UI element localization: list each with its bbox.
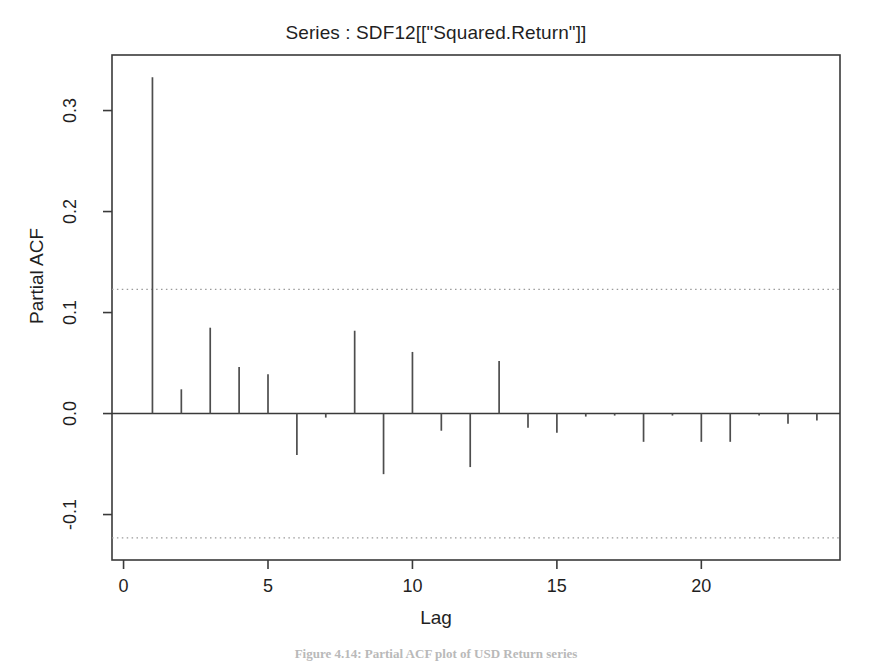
x-tick-label: 15	[527, 576, 587, 597]
y-tick-label: 0.1	[60, 290, 81, 334]
plot-frame	[112, 55, 840, 560]
y-tick-label: 0.3	[60, 88, 81, 132]
x-tick-label: 20	[671, 576, 731, 597]
x-tick-label: 10	[382, 576, 442, 597]
pacf-chart-figure: Series : SDF12[["Squared.Return"]] Parti…	[0, 0, 872, 661]
y-tick-label: 0.0	[60, 391, 81, 435]
plot-area	[0, 0, 872, 661]
y-tick-label: 0.2	[60, 189, 81, 233]
y-tick-label: -0.1	[60, 492, 81, 536]
x-tick-label: 0	[94, 576, 154, 597]
figure-caption: Figure 4.14: Partial ACF plot of USD Ret…	[0, 646, 872, 661]
x-tick-label: 5	[238, 576, 298, 597]
spike-group	[152, 77, 816, 474]
